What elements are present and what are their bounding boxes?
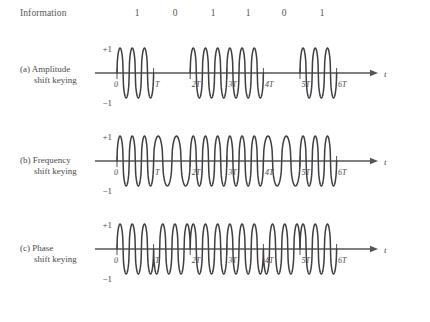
information-bit: 1 (132, 8, 142, 18)
x-axis-tick-label: 0 (114, 168, 118, 177)
y-axis-label-plus-one: +1 (102, 44, 112, 54)
x-axis-tick-label: 3T (227, 168, 237, 177)
x-axis-tick-label: 0 (114, 80, 118, 89)
y-axis-label-minus-one: −1 (102, 274, 112, 284)
panel-label-fsk: (b) Frequency shift keying (20, 155, 106, 177)
x-axis-tick-label: 3T (227, 256, 237, 265)
time-axis-label: t (384, 157, 387, 167)
y-axis-label-minus-one: −1 (102, 98, 112, 108)
figure-digital-modulation: Information 1 0 1 1 0 1 (a) Amplitude sh… (0, 0, 430, 322)
time-axis-label: t (384, 69, 387, 79)
panel-label-line1: (c) Phase (20, 243, 53, 253)
panel-label-ask: (a) Amplitude shift keying (20, 64, 106, 86)
information-bit: 1 (208, 8, 218, 18)
panel-label-line2: shift keying (20, 254, 106, 265)
information-label: Information (20, 8, 66, 18)
panel-a-waveform-group: 0T2T3T4T5T6T+1−1t (95, 44, 387, 108)
y-axis-label-minus-one: −1 (102, 186, 112, 196)
information-bit: 0 (279, 8, 289, 18)
panel-label-line1: (a) Amplitude (20, 64, 70, 74)
time-axis-label: t (384, 245, 387, 255)
time-axis-arrow (370, 246, 378, 252)
x-axis-tick-label: 4T (265, 80, 274, 89)
x-axis-tick-label: 6T (338, 80, 347, 89)
x-axis-tick-label: 3T (227, 80, 237, 89)
information-bit: 1 (317, 8, 327, 18)
x-axis-tick-label: T (155, 168, 160, 177)
y-axis-label-plus-one: +1 (102, 132, 112, 142)
panel-label-line1: (b) Frequency (20, 155, 71, 165)
panel-label-psk: (c) Phase shift keying (20, 243, 106, 265)
panel-b-waveform-group: 0T2T3T4T5T6T+1−1t (95, 132, 387, 196)
information-bit: 1 (243, 8, 253, 18)
x-axis-tick-label: 6T (338, 168, 347, 177)
y-axis-label-plus-one: +1 (102, 220, 112, 230)
panel-c-waveform-group: 0T2T3T4T5T6T+1−1t (95, 220, 387, 284)
x-axis-tick-label: 0 (114, 256, 118, 265)
x-axis-tick-label: 6T (338, 256, 347, 265)
information-bit: 0 (170, 8, 180, 18)
time-axis-arrow (370, 158, 378, 164)
x-axis-tick-label: T (155, 80, 160, 89)
panel-label-line2: shift keying (20, 166, 106, 177)
time-axis-arrow (370, 70, 378, 76)
panel-label-line2: shift keying (20, 75, 106, 86)
